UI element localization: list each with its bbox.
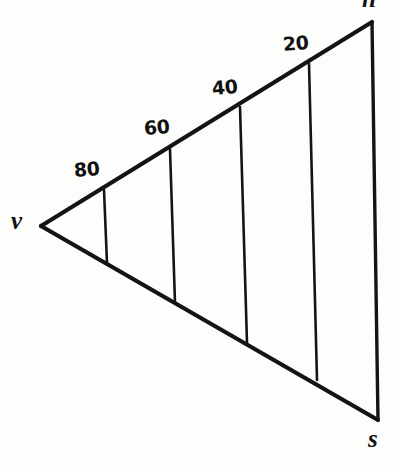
vertex-label-s: s	[368, 426, 378, 451]
chord-line-80	[104, 190, 107, 263]
chord-label-40: 40	[211, 77, 238, 98]
chord-line-20	[309, 64, 317, 380]
upper-edge-v-to-n	[41, 22, 372, 226]
triangle-figure: v n s 80 60 40 20	[0, 0, 398, 466]
chord-label-20: 20	[282, 33, 309, 54]
chord-line-60	[170, 149, 175, 303]
lower-edge-v-to-s	[41, 226, 378, 420]
right-edge-n-to-s	[372, 22, 378, 420]
chord-label-60: 60	[143, 117, 170, 138]
vertex-label-v: v	[11, 208, 22, 233]
figure-canvas	[0, 0, 398, 466]
chord-label-80: 80	[73, 159, 100, 180]
vertex-label-n: n	[362, 0, 376, 11]
chord-line-40	[240, 107, 247, 343]
